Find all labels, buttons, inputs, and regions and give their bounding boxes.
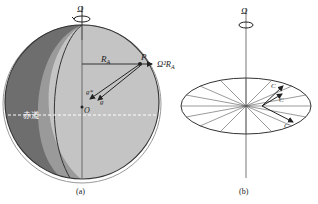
vector-c-label-2: C (279, 96, 284, 104)
g-label: g (100, 98, 104, 106)
center-o-label: O (84, 106, 90, 115)
caption-a: (a) (76, 187, 85, 196)
caption-b: (b) (239, 187, 249, 196)
vector-c-label-3: C (284, 122, 289, 130)
g-star-label: g* (86, 88, 94, 96)
disk-spokes (181, 78, 311, 134)
equator-label: 赤道 (23, 110, 39, 120)
centrifugal-label: Ω²RA (157, 59, 175, 70)
disk-panel-b (181, 8, 311, 178)
omega-label-a: Ω (77, 4, 84, 14)
point-p-label: P (140, 52, 147, 62)
omega-label-b: Ω (241, 6, 248, 16)
figure-canvas: Ω P RA Ω²RA g* g O 赤道 (a) Ω C C C (b) (0, 0, 318, 204)
sphere-panel-a (0, 6, 170, 190)
vector-c-label-1: C (271, 82, 276, 90)
